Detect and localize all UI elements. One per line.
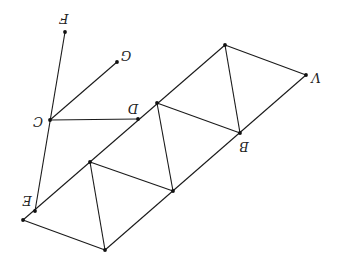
segment-P2-P3 — [157, 103, 173, 191]
point-P5 — [21, 218, 25, 222]
label-G: G — [121, 48, 131, 63]
point-C — [48, 118, 52, 122]
label-C: C — [33, 114, 43, 129]
segment-P4-P6 — [90, 162, 105, 250]
points — [21, 30, 308, 252]
segment-C-D — [50, 119, 138, 120]
point-P3 — [171, 189, 175, 193]
point-P4 — [88, 160, 92, 164]
label-D: D — [127, 101, 139, 116]
point-B — [238, 131, 242, 135]
geometry-diagram: FGCDVBE — [0, 0, 342, 272]
point-A — [304, 73, 308, 77]
segment-C-G — [50, 62, 117, 120]
label-B: B — [239, 139, 250, 154]
segment-P5-P1 — [23, 45, 225, 220]
point-P6 — [103, 248, 107, 252]
segment-P1-A — [225, 45, 306, 75]
point-P1 — [223, 43, 227, 47]
point-E — [33, 209, 37, 213]
point-G — [115, 60, 119, 64]
segments — [23, 32, 306, 250]
point-labels: FGCDVBE — [22, 11, 321, 208]
point-F — [63, 30, 67, 34]
label-F: F — [59, 11, 70, 26]
label-E: E — [22, 193, 33, 208]
point-D — [136, 117, 140, 121]
segment-P2-B — [157, 103, 240, 133]
segment-P4-P3 — [90, 162, 173, 191]
label-A: V — [310, 70, 321, 85]
segment-P5-P6 — [23, 220, 105, 250]
segment-P1-B — [225, 45, 240, 133]
point-P2 — [155, 101, 159, 105]
